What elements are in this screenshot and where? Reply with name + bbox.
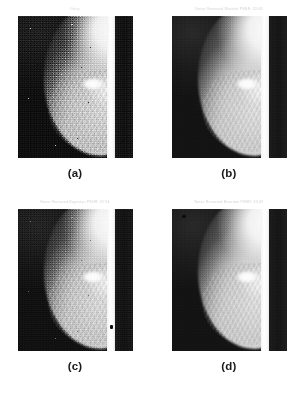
figure-panel-a: Noisy (a) <box>6 4 144 200</box>
edge-dark-band <box>115 209 133 351</box>
mammogram-image-b <box>172 16 287 158</box>
panel-b-title: Noise Removed Wavelet PSNR: 32.68 <box>160 7 298 12</box>
figure-panel-b: Noise Removed Wavelet PSNR: 32.68 (b) <box>160 4 298 200</box>
mammogram-image-d <box>172 209 287 351</box>
edge-dark-band <box>269 209 287 351</box>
lesion-spot <box>236 78 258 90</box>
artifact-dot <box>182 215 186 218</box>
edge-bright-strip <box>261 209 269 351</box>
panel-c-title: Noise Removed Bayesian PSNR: 31.94 <box>6 200 144 205</box>
panel-d-label: (d) <box>160 360 298 372</box>
edge-bright-strip <box>261 16 269 158</box>
artifact-dot <box>110 325 113 329</box>
panel-c-label: (c) <box>6 360 144 372</box>
panel-b-label: (b) <box>160 167 298 179</box>
edge-bright-strip <box>107 209 115 351</box>
figure-panel-c: Noise Removed Bayesian PSNR: 31.94 (c) <box>6 197 144 393</box>
panel-d-title: Noise Removed Bivariate PSNR: 33.49 <box>160 200 298 205</box>
lesion-spot <box>82 271 104 283</box>
mammogram-image-a <box>18 16 133 158</box>
edge-dark-band <box>269 16 287 158</box>
panel-a-label: (a) <box>6 167 144 179</box>
edge-bright-strip <box>107 16 115 158</box>
mammogram-image-c <box>18 209 133 351</box>
figure-panel-d: Noise Removed Bivariate PSNR: 33.49 (d) <box>160 197 298 393</box>
lesion-spot <box>236 271 258 283</box>
panel-a-title: Noisy <box>6 7 144 12</box>
lesion-spot <box>82 78 104 90</box>
figure-canvas: Noisy (a) Noise Removed Wavelet PSNR: 32… <box>0 0 306 397</box>
edge-dark-band <box>115 16 133 158</box>
